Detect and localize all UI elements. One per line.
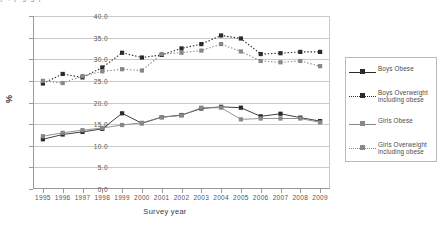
- plot-area: [33, 16, 330, 189]
- legend-item-label: Girls Obese: [376, 117, 413, 124]
- gridline: [34, 38, 330, 39]
- legend-marker-swatch: [360, 145, 365, 150]
- y-axis-tick-label: 40.0: [84, 13, 108, 20]
- x-axis-tick: [300, 189, 301, 193]
- x-axis-tick: [63, 189, 64, 193]
- legend-item[interactable]: Girls Obese: [349, 117, 437, 137]
- legend-marker-swatch: [360, 93, 365, 98]
- x-axis-tick: [182, 189, 183, 193]
- x-axis-tick: [102, 189, 103, 193]
- x-axis-tick: [43, 189, 44, 193]
- x-axis-tick-label: 2009: [307, 194, 333, 201]
- x-axis-tick: [201, 189, 202, 193]
- gridline: [34, 103, 330, 104]
- legend-item-label: Boys Obese: [376, 65, 414, 72]
- legend-item[interactable]: Girls Overweight including obese: [349, 141, 437, 161]
- gridline: [34, 124, 330, 125]
- y-axis-tick: [29, 189, 33, 190]
- x-axis-tick: [122, 189, 123, 193]
- x-axis-tick: [162, 189, 163, 193]
- legend-item-label: Boys Overweight including obese: [376, 89, 437, 104]
- y-axis-tick-label: 10.0: [84, 142, 108, 149]
- legend-key-icon: [349, 118, 376, 130]
- y-axis-tick-label: 20.0: [84, 99, 108, 106]
- legend-key-icon: [349, 66, 376, 78]
- y-axis-title: %: [4, 95, 14, 103]
- gridline: [34, 16, 330, 17]
- gridline: [34, 167, 330, 168]
- legend-key-icon: [349, 90, 376, 102]
- x-axis-tick: [261, 189, 262, 193]
- y-axis-tick: [29, 124, 33, 125]
- y-axis-tick: [29, 167, 33, 168]
- legend-marker-swatch: [360, 121, 365, 126]
- y-axis-tick-label: 0.0: [84, 186, 108, 193]
- y-axis-tick: [29, 38, 33, 39]
- y-axis-tick: [29, 103, 33, 104]
- legend-item-label: Girls Overweight including obese: [376, 141, 437, 156]
- legend-item[interactable]: Boys Obese: [349, 65, 437, 85]
- gridline: [34, 59, 330, 60]
- gridline: [34, 81, 330, 82]
- legend-marker-swatch: [360, 69, 365, 74]
- y-axis-tick: [29, 146, 33, 147]
- x-axis-tick: [320, 189, 321, 193]
- x-axis-tick: [83, 189, 84, 193]
- x-axis-tick: [281, 189, 282, 193]
- y-axis-tick-label: 5.0: [84, 164, 108, 171]
- y-axis-tick: [29, 81, 33, 82]
- x-axis-title: Survey year: [0, 207, 330, 216]
- legend-item[interactable]: Boys Overweight including obese: [349, 89, 437, 109]
- x-axis-tick: [142, 189, 143, 193]
- clipped-caption-text: y , p g g p: [0, 0, 300, 4]
- y-axis-tick-label: 30.0: [84, 56, 108, 63]
- y-axis-tick-label: 15.0: [84, 121, 108, 128]
- x-axis-tick: [241, 189, 242, 193]
- x-axis-tick: [221, 189, 222, 193]
- y-axis-tick: [29, 59, 33, 60]
- chart-figure: y , p g g p 0.05.010.015.020.025.030.035…: [0, 0, 444, 238]
- legend-key-icon: [349, 142, 376, 154]
- y-axis-tick-label: 35.0: [84, 34, 108, 41]
- y-axis-tick-label: 25.0: [84, 77, 108, 84]
- y-axis-tick: [29, 16, 33, 17]
- chart-legend: Boys ObeseBoys Overweight including obes…: [345, 57, 437, 162]
- gridline: [34, 146, 330, 147]
